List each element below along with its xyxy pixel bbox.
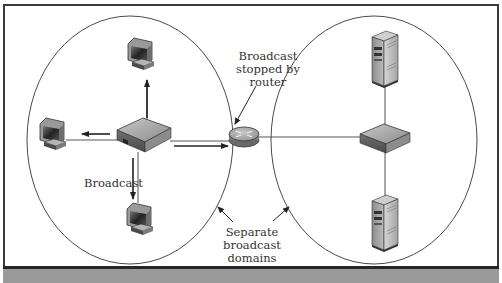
router-icon: [229, 127, 259, 147]
broadcast-label: Broadcast: [84, 177, 136, 190]
computer-left-icon: [40, 118, 66, 150]
computer-top-icon: [128, 38, 154, 70]
server-bottom-icon: [372, 195, 398, 252]
domains-note-label: Separate broadcast domains: [207, 226, 297, 265]
left-switch-icon: [117, 118, 171, 152]
right-switch-icon: [360, 124, 410, 153]
server-top-icon: [372, 31, 398, 88]
computer-bottom-icon: [127, 203, 153, 235]
router-note-label: Broadcast stopped by router: [222, 50, 314, 89]
